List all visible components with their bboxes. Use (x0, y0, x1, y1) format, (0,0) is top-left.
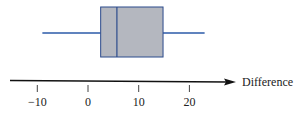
x-axis-label: Difference (242, 75, 293, 89)
tick-label: 10 (133, 95, 145, 109)
box-plot (42, 7, 204, 57)
interquartile-box (101, 7, 163, 57)
box-plot-chart: −1001020Difference (0, 0, 298, 118)
x-axis: −1001020Difference (10, 75, 293, 109)
tick-label: −10 (28, 95, 47, 109)
tick-label: 0 (85, 95, 91, 109)
axis-line (10, 81, 228, 83)
tick-label: 20 (183, 95, 195, 109)
